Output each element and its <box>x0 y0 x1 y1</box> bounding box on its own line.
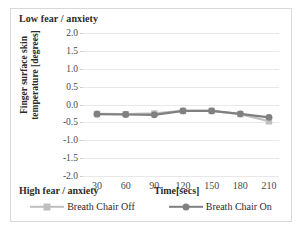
data-point-marker <box>208 108 215 115</box>
x-tick-label: 60 <box>121 180 131 191</box>
data-point-marker <box>180 108 187 115</box>
x-axis-title: Time[secs] <box>154 185 199 196</box>
series-layer <box>83 33 279 176</box>
legend-swatch-icon <box>169 202 203 211</box>
legend-item[interactable]: Breath Chair Off <box>30 201 135 212</box>
plot-area: 2.01.51.00.50.0-0.5-1.0-1.5-2.0 30609012… <box>83 33 279 176</box>
data-point-marker <box>151 111 158 118</box>
y-tick-label: 1.0 <box>66 64 78 74</box>
legend-label: Breath Chair Off <box>67 201 135 212</box>
legend-swatch-icon <box>30 202 64 211</box>
x-tick-label: 180 <box>233 180 248 191</box>
y-axis-title: Finger surface skin temperature [degrees… <box>19 10 41 140</box>
bottom-axis-annotation: High fear / anxiety <box>19 185 99 196</box>
y-tick-label: -1.5 <box>63 153 78 163</box>
data-point-marker <box>94 111 101 118</box>
legend-item[interactable]: Breath Chair On <box>169 201 272 212</box>
y-tick-label: -2.0 <box>63 171 78 181</box>
y-tick-label: -0.5 <box>63 117 78 127</box>
series-breath-chair-on <box>94 108 273 121</box>
chart-legend: Breath Chair OffBreath Chair On <box>11 201 291 212</box>
legend-marker <box>44 203 51 210</box>
gridline <box>83 176 279 177</box>
data-point-marker <box>266 114 273 121</box>
y-tick-label: 2.0 <box>66 28 78 38</box>
legend-label: Breath Chair On <box>206 201 272 212</box>
y-tick-label: 0.0 <box>66 100 78 110</box>
legend-marker <box>182 203 189 210</box>
data-point-marker <box>122 111 129 118</box>
y-tick-label: -1.0 <box>63 135 78 145</box>
y-tickmark <box>80 176 83 177</box>
x-tick-label: 150 <box>204 180 219 191</box>
data-point-marker <box>237 110 244 117</box>
y-tick-label: 0.5 <box>66 82 78 92</box>
y-tick-label: 1.5 <box>66 46 78 56</box>
x-tick-label: 210 <box>262 180 277 191</box>
chart-figure: Low fear / anxiety Finger surface skin t… <box>10 8 292 222</box>
